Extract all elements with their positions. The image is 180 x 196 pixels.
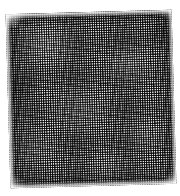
edge-vignette-layer (6, 10, 177, 189)
mesh-swatch (6, 10, 177, 189)
image-canvas: Grayscale close-up photograph of a squar… (0, 0, 180, 196)
